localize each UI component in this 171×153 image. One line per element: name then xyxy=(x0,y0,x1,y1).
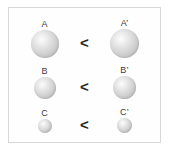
operator-cell: < xyxy=(71,109,99,132)
sphere-label-a: A xyxy=(41,19,47,29)
less-than-operator-a: < xyxy=(80,35,89,50)
sphere-label-c-prime: C’ xyxy=(120,107,129,117)
operator-cell: < xyxy=(71,71,99,94)
less-than-operator-c: < xyxy=(80,117,89,132)
comparison-row: B < B’ xyxy=(8,62,161,102)
sphere-icon-c-prime xyxy=(117,118,132,133)
sphere-label-b: B xyxy=(41,66,47,76)
sphere-icon-b-prime xyxy=(113,76,136,99)
comparison-row: C < C’ xyxy=(8,102,161,138)
comparison-row: A < A’ xyxy=(8,14,161,62)
sphere-cell-left: B xyxy=(19,66,71,99)
sphere-label-a-prime: A’ xyxy=(121,18,129,28)
sphere-icon-c xyxy=(38,119,52,133)
sphere-cell-left: C xyxy=(19,108,71,133)
sphere-cell-left: A xyxy=(19,19,71,58)
sphere-label-c: C xyxy=(41,108,48,118)
comparison-rows: A < A’ B < B’ xyxy=(8,7,161,143)
sphere-cell-right: B’ xyxy=(99,65,151,99)
sphere-icon-a xyxy=(31,30,59,58)
sphere-label-b-prime: B’ xyxy=(120,65,128,75)
sphere-cell-right: A’ xyxy=(99,18,151,58)
sphere-icon-b xyxy=(34,77,56,99)
sphere-icon-a-prime xyxy=(110,29,139,58)
less-than-operator-b: < xyxy=(80,79,89,94)
sphere-cell-right: C’ xyxy=(99,107,151,133)
figure-root: A < A’ B < B’ xyxy=(0,0,171,153)
operator-cell: < xyxy=(71,27,99,50)
